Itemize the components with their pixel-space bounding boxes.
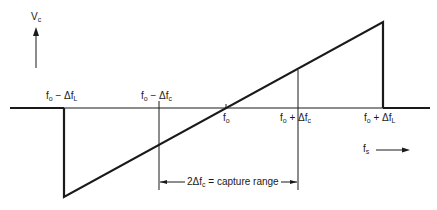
label-lock-high: fo + ΔfL	[364, 113, 395, 124]
label-center-frequency: fo	[223, 113, 230, 124]
x-axis-label: fs	[363, 144, 369, 155]
arrow-right-icon	[290, 180, 297, 184]
label-capture-high: fo + Δfc	[280, 113, 311, 124]
x-arrow-head-icon	[402, 148, 410, 153]
vc-characteristic-curve	[64, 22, 383, 197]
y-axis-label: Vc	[31, 12, 41, 23]
label-capture-low: fo − Δfc	[141, 91, 172, 102]
label-lock-low: fo − ΔfL	[46, 91, 77, 102]
capture-range-label: 2Δfc = capture range	[185, 177, 281, 188]
y-arrow-head-icon	[33, 27, 39, 36]
arrow-left-icon	[160, 180, 167, 184]
